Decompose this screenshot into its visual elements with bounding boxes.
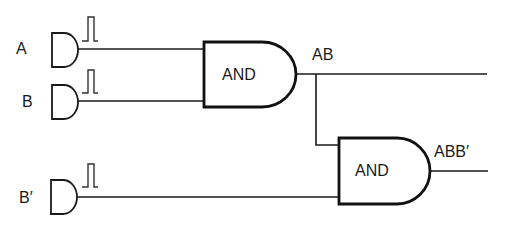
output-label-abb-prime: ABB′ [434, 143, 469, 160]
gate1-label: AND [222, 66, 256, 83]
gate2-label: AND [355, 162, 389, 179]
pulse-icon [82, 164, 98, 187]
input-label-a: A [16, 40, 27, 57]
pulse-icon [82, 17, 98, 41]
input-label-b: B [22, 93, 33, 110]
output-label-ab: AB [312, 46, 333, 63]
wire-ab-to-gate2 [316, 74, 340, 145]
input-source-b-prime [51, 180, 77, 214]
input-source-a [52, 33, 78, 67]
pulse-icon [82, 70, 98, 93]
input-source-b [52, 85, 78, 119]
input-label-b-prime: B′ [19, 189, 33, 206]
logic-circuit-diagram: A B B′ AND AND AB ABB′ [0, 0, 507, 227]
